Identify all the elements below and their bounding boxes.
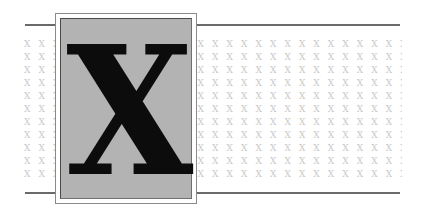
- drop-cap-letter: X: [66, 27, 186, 197]
- letter-panel: X: [60, 18, 192, 199]
- letter-frame: X: [55, 13, 197, 204]
